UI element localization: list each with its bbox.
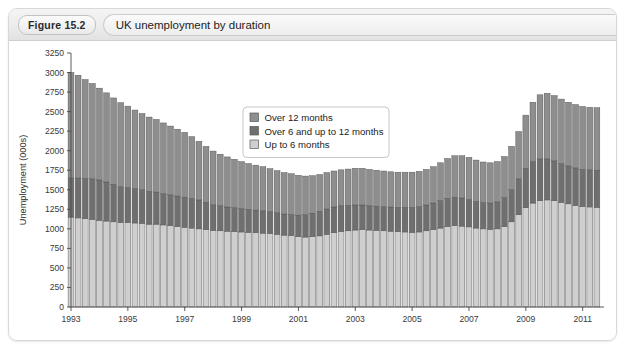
unemployment-stacked-bar-chart: 0250500750100012501500175020002250250027… bbox=[9, 41, 617, 341]
bar-segment bbox=[189, 228, 195, 307]
bar-segment bbox=[431, 203, 437, 230]
bar-segment bbox=[438, 201, 444, 228]
bar-segment bbox=[466, 200, 472, 227]
bar-segment bbox=[189, 198, 195, 228]
bar-segment bbox=[196, 200, 202, 229]
bar-segment bbox=[445, 159, 451, 199]
bar-segment bbox=[232, 159, 238, 207]
y-axis-tick-label: 2750 bbox=[45, 87, 64, 97]
figure-card: Figure 15.2 UK unemployment by duration … bbox=[8, 8, 617, 341]
bar-segment bbox=[416, 207, 422, 232]
bar-segment bbox=[153, 119, 159, 192]
x-axis: 1993199519971999200120032005200720092011 bbox=[61, 307, 604, 324]
bar-segment bbox=[509, 190, 515, 222]
bar-segment bbox=[175, 129, 181, 196]
y-axis-tick-label: 1500 bbox=[45, 185, 64, 195]
bar-segment bbox=[153, 224, 159, 307]
bar-segment bbox=[537, 159, 543, 201]
bar-segment bbox=[75, 75, 81, 178]
bar-segment bbox=[551, 201, 557, 307]
bar-segment bbox=[573, 205, 579, 307]
bar-segment bbox=[232, 232, 238, 307]
y-axis-tick-label: 3000 bbox=[45, 68, 64, 78]
y-axis: 0250500750100012501500175020002250250027… bbox=[45, 48, 71, 312]
bar-segment bbox=[210, 230, 216, 307]
bar-segment bbox=[217, 154, 223, 206]
bar-segment bbox=[416, 171, 422, 206]
bar-segment bbox=[331, 171, 337, 207]
bar-segment bbox=[388, 172, 394, 207]
bar-segment bbox=[182, 227, 188, 307]
chart-plot-area: 0250500750100012501500175020002250250027… bbox=[9, 41, 617, 341]
bar-segment bbox=[345, 205, 351, 230]
x-axis-tick-label: 2007 bbox=[459, 314, 478, 324]
y-axis-tick-label: 1250 bbox=[45, 204, 64, 214]
bar-segment bbox=[438, 163, 444, 201]
bar-segment bbox=[523, 208, 529, 307]
bar-segment bbox=[395, 172, 401, 207]
legend-swatch bbox=[250, 140, 259, 149]
bar-segment bbox=[146, 117, 152, 191]
y-axis-tick-label: 2250 bbox=[45, 126, 64, 136]
bar-segment bbox=[288, 174, 294, 215]
bar-segment bbox=[310, 213, 316, 236]
bar-segment bbox=[487, 163, 493, 203]
legend-swatch bbox=[250, 127, 259, 136]
bar-segment bbox=[132, 110, 138, 189]
y-axis-title-text: Unemployment (000s) bbox=[18, 135, 28, 225]
y-axis-tick-label: 1750 bbox=[45, 165, 64, 175]
bar-segment bbox=[438, 228, 444, 307]
bar-segment bbox=[551, 96, 557, 161]
bar-segment bbox=[118, 223, 124, 307]
bar-segment bbox=[523, 115, 529, 168]
y-axis-tick-label: 2000 bbox=[45, 146, 64, 156]
bar-segment bbox=[374, 206, 380, 230]
bar-segment bbox=[345, 231, 351, 307]
bar-segment bbox=[367, 206, 373, 230]
bar-segment bbox=[367, 230, 373, 307]
bar-segment bbox=[551, 161, 557, 201]
bar-segment bbox=[189, 137, 195, 199]
bar-segment bbox=[260, 233, 266, 307]
bar-segment bbox=[125, 223, 131, 307]
bar-segment bbox=[203, 230, 209, 307]
bar-segment bbox=[402, 232, 408, 307]
bar-segment bbox=[274, 213, 280, 234]
x-axis-tick-label: 1995 bbox=[118, 314, 137, 324]
bar-segment bbox=[530, 102, 536, 161]
bar-segment bbox=[594, 108, 600, 171]
bar-segment bbox=[416, 232, 422, 307]
bar-segment bbox=[288, 214, 294, 235]
bar-segment bbox=[331, 233, 337, 307]
bar-segment bbox=[594, 170, 600, 207]
bar-segment bbox=[445, 227, 451, 308]
legend-label: Over 6 and up to 12 months bbox=[265, 126, 384, 137]
bar-segment bbox=[175, 196, 181, 226]
bar-segment bbox=[402, 207, 408, 232]
bar-segment bbox=[459, 198, 465, 226]
bar-segment bbox=[97, 88, 103, 180]
bar-segment bbox=[587, 207, 593, 307]
bar-segment bbox=[260, 167, 266, 211]
bar-segment bbox=[573, 168, 579, 206]
bar-segment bbox=[182, 197, 188, 227]
bar-segment bbox=[288, 235, 294, 307]
bar-segment bbox=[182, 132, 188, 197]
bar-segment bbox=[487, 229, 493, 307]
bar-segment bbox=[224, 207, 230, 231]
bar-segment bbox=[196, 141, 202, 200]
bar-segment bbox=[352, 168, 358, 205]
bar-segment bbox=[239, 209, 245, 232]
bar-segment bbox=[473, 228, 479, 307]
bar-segment bbox=[558, 164, 564, 203]
bar-segment bbox=[111, 184, 117, 222]
bar-segment bbox=[409, 207, 415, 232]
bar-segment bbox=[111, 98, 117, 184]
bar-segment bbox=[537, 95, 543, 159]
bar-segment bbox=[573, 105, 579, 168]
x-axis-tick-label: 2003 bbox=[346, 314, 365, 324]
bar-segment bbox=[153, 192, 159, 224]
bar-segment bbox=[345, 169, 351, 205]
bar-segment bbox=[203, 202, 209, 229]
bar-segment bbox=[530, 203, 536, 307]
